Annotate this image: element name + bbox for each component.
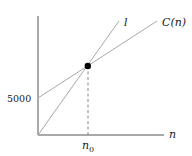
intersection-point (85, 63, 91, 69)
label-c-n: C(n) (162, 16, 186, 29)
line-l (38, 21, 119, 135)
x-tick-subscript: 0 (89, 145, 94, 154)
x-tick-n: n (82, 139, 89, 152)
y-tick-5000: 5000 (7, 93, 31, 104)
line-c-n (38, 21, 157, 98)
x-tick-n0: n0 (82, 139, 94, 154)
x-axis-label: n (169, 128, 176, 141)
chart-svg: l C(n) 5000 n n0 (0, 0, 192, 156)
label-l: l (124, 16, 128, 29)
chart: l C(n) 5000 n n0 (0, 0, 192, 156)
